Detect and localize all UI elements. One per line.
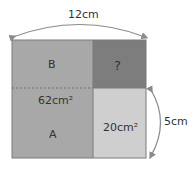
region-a-label: A [49,128,57,141]
height-dimension-arrow [151,90,161,156]
region-b-label: B [48,58,56,71]
diagram-graphics [0,0,193,180]
width-dimension-arrow [13,25,145,38]
region-c-area-label: 20cm² [103,121,138,134]
region-a-area-label: 62cm² [38,94,73,107]
width-label: 12cm [68,8,99,21]
area-diagram: 12cm 5cm B ? 62cm² A 20cm² [0,0,193,180]
region-unknown-label: ? [114,58,121,73]
height-label: 5cm [164,115,188,128]
